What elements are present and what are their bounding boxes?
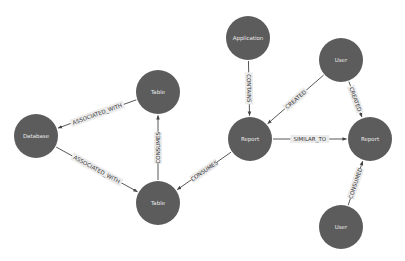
edge-label: CONTAINS bbox=[246, 74, 253, 103]
nodes-layer: ApplicationUserTableDatabaseReportReport… bbox=[14, 16, 392, 249]
node-label: Application bbox=[233, 35, 264, 42]
edge-label: CONSUMES bbox=[190, 159, 220, 182]
edge-label-group: CONSUMED bbox=[347, 167, 365, 200]
edge-contains[interactable]: CONTAINS bbox=[245, 61, 254, 116]
edge-label: CREATED bbox=[284, 89, 307, 110]
edge-associated-with[interactable]: ASSOCIATED_WITH bbox=[56, 147, 137, 192]
node-label: User bbox=[335, 224, 348, 230]
edge-label: ASSOCIATED_WITH bbox=[72, 154, 121, 185]
node-label: Database bbox=[23, 133, 50, 139]
node-label: Table bbox=[150, 200, 166, 206]
edge-consumes[interactable]: CONSUMES bbox=[177, 152, 231, 189]
edge-label-group: SIMILAR_TO bbox=[290, 135, 329, 143]
edge-label-group: ASSOCIATED_WITH bbox=[69, 101, 125, 128]
node-report-right[interactable]: Report bbox=[348, 117, 392, 161]
node-table-top[interactable]: Table bbox=[136, 70, 180, 114]
node-user-bottom[interactable]: User bbox=[319, 205, 363, 249]
edge-label-group: CONSUMES bbox=[154, 131, 162, 163]
node-label: Report bbox=[361, 136, 380, 143]
node-label: User bbox=[335, 57, 348, 63]
edge-label: ASSOCIATED_WITH bbox=[72, 102, 124, 126]
node-database[interactable]: Database bbox=[14, 114, 58, 158]
edge-associated-with[interactable]: ASSOCIATED_WITH bbox=[58, 100, 136, 128]
node-label: Report bbox=[241, 136, 260, 143]
node-label: Table bbox=[150, 89, 166, 95]
edge-consumes[interactable]: CONSUMES bbox=[154, 116, 162, 181]
edge-similar-to[interactable]: SIMILAR_TO bbox=[273, 135, 347, 143]
edge-label: CONSUMES bbox=[155, 131, 161, 163]
graph-canvas: CONTAINSCREATEDCREATEDSIMILAR_TOCONSUMES… bbox=[0, 0, 405, 261]
node-application[interactable]: Application bbox=[226, 16, 270, 60]
edge-label-group: CONSUMES bbox=[189, 158, 220, 183]
edge-label-group: CREATED bbox=[282, 87, 309, 112]
edge-created[interactable]: CREATED bbox=[347, 82, 364, 117]
edge-label: SIMILAR_TO bbox=[293, 136, 326, 143]
node-table-bottom[interactable]: Table bbox=[136, 181, 180, 225]
edges-layer: CONTAINSCREATEDCREATEDSIMILAR_TOCONSUMES… bbox=[56, 61, 364, 205]
edge-label-group: CREATED bbox=[347, 85, 364, 115]
node-report-mid[interactable]: Report bbox=[228, 117, 272, 161]
node-user-top[interactable]: User bbox=[319, 38, 363, 82]
edge-consumed[interactable]: CONSUMED bbox=[347, 161, 365, 205]
edge-created[interactable]: CREATED bbox=[268, 75, 324, 124]
edge-label-group: CONTAINS bbox=[245, 72, 254, 104]
edge-label-group: ASSOCIATED_WITH bbox=[70, 152, 123, 186]
